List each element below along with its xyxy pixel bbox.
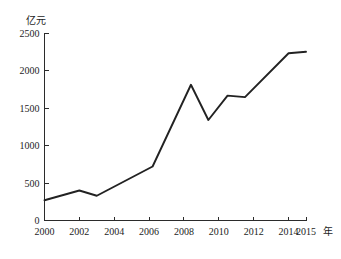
x-axis-tick-labels: 200020022004200620082010201220142015 <box>35 226 317 237</box>
y-tick-label: 500 <box>25 178 40 189</box>
x-tick-label: 2006 <box>139 226 159 237</box>
x-tick-label: 2000 <box>35 226 55 237</box>
x-tick-label: 2002 <box>69 226 89 237</box>
y-tick-label: 0 <box>35 215 40 226</box>
y-tick-label: 2000 <box>20 65 40 76</box>
y-tick-label: 2500 <box>20 28 40 39</box>
chart-canvas: 05001000150020002500 2000200220042006200… <box>0 0 341 259</box>
line-chart: 05001000150020002500 2000200220042006200… <box>0 0 341 259</box>
y-tick-label: 1500 <box>20 103 40 114</box>
y-axis-ticks <box>45 33 49 221</box>
x-tick-label: 2004 <box>104 226 124 237</box>
x-axis-ticks <box>45 217 307 221</box>
x-tick-label: 2010 <box>209 226 229 237</box>
x-axis-title: 年 <box>323 225 333 237</box>
y-axis-tick-labels: 05001000150020002500 <box>20 28 40 227</box>
x-tick-label: 2012 <box>244 226 264 237</box>
data-series-line <box>45 52 307 201</box>
y-axis-title: 亿元 <box>26 14 46 26</box>
y-tick-label: 1000 <box>20 140 40 151</box>
y-axis-group: 05001000150020002500 <box>20 28 49 227</box>
x-tick-label: 2015 <box>296 226 316 237</box>
x-tick-label: 2008 <box>174 226 194 237</box>
x-axis-group: 200020022004200620082010201220142015 <box>35 217 317 237</box>
